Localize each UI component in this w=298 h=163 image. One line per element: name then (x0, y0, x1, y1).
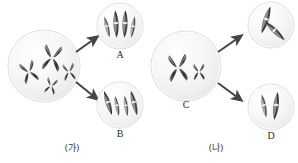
label-group-ga: (가) (56, 144, 88, 153)
label-c: C (178, 100, 194, 110)
parent-cell-c (151, 31, 221, 101)
daughter-cell-a (97, 3, 143, 49)
arrow-c-to-upper (218, 36, 241, 52)
diagram-canvas (0, 0, 298, 163)
parent-cell-ga (8, 30, 80, 102)
label-b: B (112, 129, 128, 139)
daughter-cell-d (248, 84, 294, 130)
arrow-ga-to-a (76, 37, 97, 52)
arrow-ga-to-b (76, 82, 97, 99)
daughter-cell-b (97, 82, 143, 128)
label-d: D (263, 131, 279, 141)
label-group-na: (나) (200, 144, 232, 153)
label-a: A (112, 50, 128, 60)
daughter-cell-upper-right (248, 2, 294, 48)
arrow-c-to-d (218, 83, 241, 100)
